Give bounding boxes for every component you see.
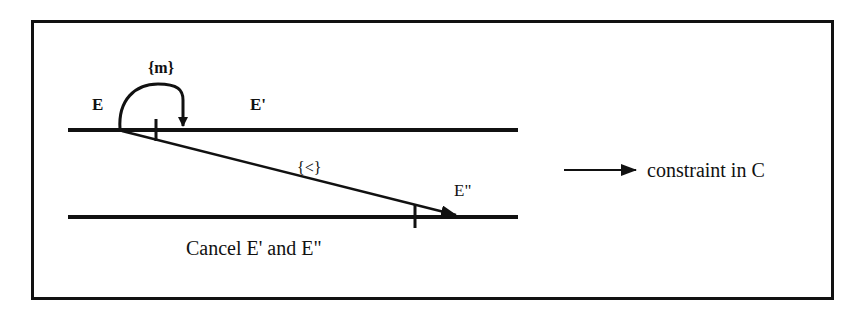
event-label-e-double-prime: E" (454, 181, 471, 200)
diagram-caption: Cancel E' and E" (186, 237, 322, 259)
event-label-e-prime: E' (250, 95, 266, 114)
legend-label: constraint in C (647, 159, 765, 181)
m-constraint-arc (120, 84, 183, 129)
event-label-e: E (92, 95, 103, 114)
lt-constraint-arrow (122, 131, 456, 215)
m-constraint-label: {m} (148, 59, 174, 76)
diagram-canvas: E E' E" {m} {<} Cancel E' and E" constra… (0, 0, 859, 317)
legend: constraint in C (564, 159, 765, 181)
lt-constraint-label: {<} (297, 159, 321, 176)
